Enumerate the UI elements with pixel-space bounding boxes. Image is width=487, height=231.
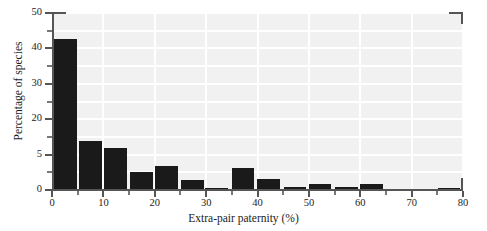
x-axis-title: Extra-pair paternity (%) (0, 212, 487, 224)
y-tick-minor (47, 171, 52, 173)
x-tick-minor (179, 191, 181, 195)
histogram-bar (232, 168, 255, 190)
histogram-figure: 0520304050 01020304050607080 Extra-pair … (0, 0, 487, 231)
x-tick-minor (282, 191, 284, 195)
y-tick-minor (47, 65, 52, 67)
plot-area (52, 13, 463, 190)
x-tick-minor (77, 191, 79, 195)
x-tick-label: 60 (340, 198, 380, 209)
y-tick-minor (47, 101, 52, 103)
x-tick-label: 40 (238, 198, 278, 209)
frame-corner-top-left-horizontal (52, 12, 66, 14)
histogram-bar (130, 172, 153, 190)
y-axis-title: Percentage of species (12, 11, 24, 171)
y-tick-major (45, 118, 52, 120)
y-tick-major (45, 47, 52, 49)
x-tick-label: 10 (83, 198, 123, 209)
histogram-bar (79, 141, 102, 190)
x-tick-label: 20 (135, 198, 175, 209)
histogram-bar (155, 166, 178, 190)
y-tick-major (45, 12, 52, 14)
y-tick-minor (47, 136, 52, 138)
frame-corner-bottom-right-vertical (461, 178, 463, 190)
bars-layer (52, 13, 463, 190)
x-tick-minor (436, 191, 438, 195)
x-tick-label: 50 (289, 198, 329, 209)
x-tick-minor (334, 191, 336, 195)
x-tick-label: 30 (186, 198, 226, 209)
histogram-bar (54, 39, 77, 190)
y-tick-major (45, 83, 52, 85)
x-tick-label: 0 (32, 198, 72, 209)
x-tick-minor (128, 191, 130, 195)
y-tick-label: 0 (0, 184, 42, 195)
frame-corner-top-right-vertical (461, 12, 463, 24)
y-tick-major (45, 154, 52, 156)
frame-corner-top-left-vertical (52, 12, 54, 24)
x-tick-label: 80 (443, 198, 483, 209)
y-axis-line (52, 13, 54, 191)
histogram-bar (104, 148, 127, 190)
x-tick-minor (385, 191, 387, 195)
y-tick-minor (47, 30, 52, 32)
x-tick-label: 70 (392, 198, 432, 209)
x-tick-minor (231, 191, 233, 195)
